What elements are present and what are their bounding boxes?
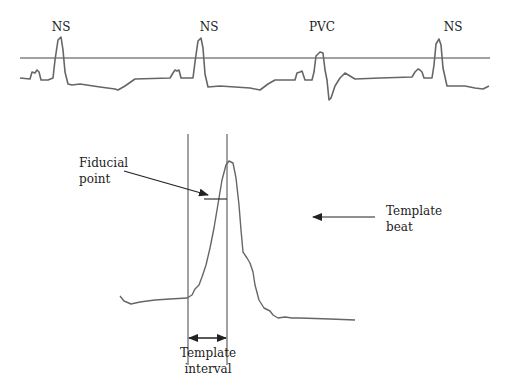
template-beat-label-line2: beat [386,220,413,234]
fiducial-point-label-line1: Fiducial [79,156,128,170]
ecg-diagram [0,0,524,382]
fiducial-arrow [124,171,208,195]
fiducial-point-label-line2: point [79,172,110,186]
template-interval-label-line2: interval [173,362,243,376]
ecg-strip-trace [20,37,489,100]
template-beat-label-line1: Template [386,204,442,218]
beat-label-pvc: PVC [304,20,340,34]
template-beat-trace [120,161,355,320]
beat-label-ns-3: NS [438,20,468,34]
beat-label-ns-1: NS [46,20,76,34]
beat-label-ns-2: NS [194,20,224,34]
template-interval-label-line1: Template [173,346,243,360]
